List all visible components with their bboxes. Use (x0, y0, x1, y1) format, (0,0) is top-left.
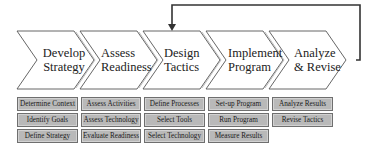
task-evaluate-readiness: Evaluate Readiness (81, 129, 141, 143)
stage-label-line: Tactics (164, 60, 214, 74)
process-diagram: Develop Strategy Assess Readiness Design… (0, 0, 375, 149)
stage-label-assess-readiness: Assess Readiness (101, 46, 155, 74)
stage-label-design-tactics: Design Tactics (164, 46, 214, 74)
stage-label-line: Strategy (38, 60, 90, 74)
task-assess-technology: Assess Technology (81, 113, 141, 127)
stage-label-line: Implement (228, 46, 282, 60)
stage-label-line: Assess (101, 46, 155, 60)
task-assess-activities: Assess Activities (81, 97, 141, 111)
task-revise-tactics: Revise Tactics (272, 113, 333, 127)
task-identify-goals: Identify Goals (17, 113, 78, 127)
arrowhead-icon (168, 24, 176, 31)
task-select-tools: Select Tools (144, 113, 205, 127)
stage-label-line: Readiness (101, 60, 155, 74)
stage-label-line: Program (228, 60, 282, 74)
stage-label-line: Develop (38, 46, 90, 60)
task-run-program: Run Program (208, 113, 269, 127)
stage-label-line: Analyze (294, 46, 344, 60)
stage-label-develop-strategy: Develop Strategy (38, 46, 90, 74)
task-analyze-results: Analyze Results (272, 97, 333, 111)
task-select-technology: Select Technology (144, 129, 205, 143)
task-set-up-program: Set-up Program (208, 97, 269, 111)
stage-label-line: Design (164, 46, 214, 60)
task-determine-context: Determine Context (17, 97, 78, 111)
stage-label-implement-program: Implement Program (228, 46, 282, 74)
task-define-processes: Define Processes (144, 97, 205, 111)
stage-label-line: & Revise (294, 60, 344, 74)
task-define-strategy: Define Strategy (17, 129, 78, 143)
task-measure-results: Measure Results (208, 129, 269, 143)
stage-label-analyze-revise: Analyze & Revise (294, 46, 344, 74)
